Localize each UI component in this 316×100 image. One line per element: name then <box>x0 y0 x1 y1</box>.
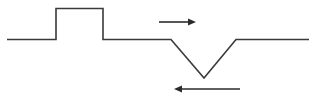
top-arrow <box>159 19 196 26</box>
arrow-annotations <box>159 19 240 93</box>
diagram-canvas <box>0 0 316 100</box>
waveform-diagram <box>0 0 316 100</box>
waveform-line <box>7 9 309 79</box>
bottom-arrow <box>174 86 240 93</box>
top-arrow-head-icon <box>188 19 196 26</box>
bottom-arrow-head-icon <box>174 86 182 93</box>
